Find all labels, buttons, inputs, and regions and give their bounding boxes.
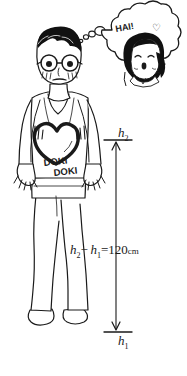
neck (48, 84, 70, 101)
upper-height-label: h2 (118, 126, 129, 143)
upper-height-subscript: 2 (125, 134, 129, 143)
lower-height-subscript: 1 (125, 342, 129, 351)
illustration-artboard: DOKI DOKI HAI! ♡ (0, 0, 187, 376)
figure-canvas: DOKI DOKI HAI! ♡ h2 h1 h2− h1=120cm (0, 0, 187, 376)
equation-value: 120 (108, 242, 128, 257)
equation-operator: − (81, 242, 88, 257)
equation-unit: cm (128, 246, 139, 256)
height-difference-equation: h2− h1=120cm (70, 243, 139, 260)
small-heart-icon: ♡ (152, 22, 161, 33)
pants-waist (32, 176, 86, 198)
lower-height-label: h1 (118, 334, 129, 351)
